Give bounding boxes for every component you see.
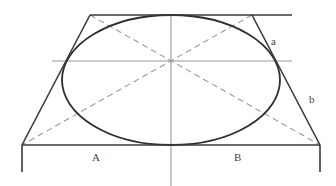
label-A: A	[92, 152, 100, 163]
label-a: a	[271, 36, 276, 47]
ellipse-in-trapezoid-diagram	[0, 0, 336, 186]
label-B: B	[234, 152, 241, 163]
label-b: b	[309, 94, 315, 105]
